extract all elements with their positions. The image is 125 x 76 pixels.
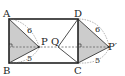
segment-qc	[58, 47, 78, 63]
geometry-diagram: A B C D P Q P′ 6 5 6 5	[0, 0, 125, 76]
length-bp: 5	[27, 54, 32, 63]
length-cp-prime: 5	[95, 56, 100, 65]
shaded-triangle-abp	[9, 19, 39, 63]
label-b: B	[3, 65, 10, 76]
label-q: Q	[51, 36, 59, 47]
length-ap: 6	[27, 26, 32, 35]
point-p-dot	[38, 46, 40, 48]
label-a: A	[2, 8, 11, 19]
segment-qd	[58, 19, 78, 47]
label-p: P	[41, 36, 48, 47]
length-dp-prime: 6	[95, 25, 100, 34]
shaded-triangle-dcp-prime	[78, 19, 109, 63]
label-d: D	[74, 8, 82, 19]
label-p-prime: P′	[108, 41, 118, 52]
label-c: C	[74, 65, 82, 76]
